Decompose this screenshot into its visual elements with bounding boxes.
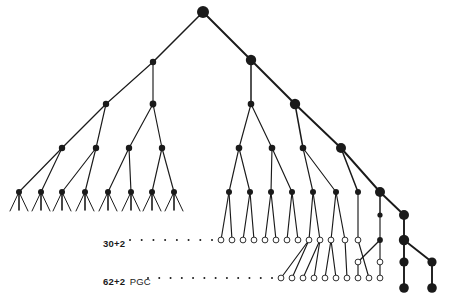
- tree-node-filled: [59, 189, 65, 195]
- tree-node-filled: [399, 257, 408, 266]
- tree-node-filled: [247, 189, 253, 195]
- tree-node-filled: [427, 283, 437, 293]
- terminal-stub: [165, 192, 174, 211]
- tree-edge: [313, 192, 320, 240]
- tree-node-filled: [269, 145, 276, 152]
- tree-node-open: [377, 259, 383, 265]
- tree-node-filled: [149, 189, 155, 195]
- tree-node-filled: [289, 189, 295, 195]
- terminal-stub: [76, 192, 85, 211]
- terminal-stub: [122, 192, 131, 211]
- tree-edge: [129, 104, 153, 148]
- tree-node-open: [240, 237, 246, 243]
- leader-dot: [152, 239, 154, 241]
- tree-stubs-layer: [10, 192, 183, 211]
- tree-node-open: [322, 275, 328, 281]
- tree-edge: [229, 148, 239, 192]
- tree-node-filled: [150, 101, 157, 108]
- tree-edge: [221, 192, 229, 240]
- tree-node-filled: [246, 55, 256, 65]
- tree-edge: [108, 148, 129, 192]
- leader-dot: [237, 277, 239, 279]
- terminal-stub: [41, 192, 50, 211]
- terminal-stub: [143, 192, 152, 211]
- leader-dot: [188, 239, 190, 241]
- terminal-stub: [99, 192, 108, 211]
- leader-dot: [211, 239, 213, 241]
- tree-edge: [62, 104, 106, 148]
- leader-dot: [176, 239, 178, 241]
- leader-dot: [215, 277, 217, 279]
- tree-edge: [325, 240, 331, 278]
- tree-edge: [345, 240, 347, 278]
- tree-edge: [331, 240, 336, 278]
- terminal-stub: [85, 192, 94, 211]
- tree-node-filled: [38, 189, 44, 195]
- leader-dot: [170, 277, 172, 279]
- tree-node-open: [317, 237, 323, 243]
- leader-dot: [141, 239, 143, 241]
- tree-node-open: [306, 237, 312, 243]
- tree-node-open: [355, 237, 361, 243]
- lineage-tree-graphic: [0, 0, 450, 302]
- tree-node-filled: [399, 283, 409, 293]
- tree-node-open: [295, 237, 301, 243]
- tree-edge: [153, 104, 162, 148]
- tree-node-open: [333, 275, 339, 281]
- tree-edge: [341, 148, 358, 192]
- tree-node-filled: [93, 145, 99, 151]
- tree-node-filled: [16, 189, 22, 195]
- tree-node-open: [377, 275, 383, 281]
- tree-node-filled: [310, 189, 316, 195]
- tree-node-open: [284, 237, 290, 243]
- tree-edge: [358, 240, 369, 278]
- leader-dot: [271, 277, 273, 279]
- leader-dot: [158, 277, 160, 279]
- tree-node-filled: [268, 189, 274, 195]
- tree-node-open: [218, 237, 224, 243]
- terminal-stub: [53, 192, 62, 211]
- tree-edge: [19, 148, 62, 192]
- tree-edge: [162, 148, 174, 192]
- figure-canvas: 30+2 62+2 PGC: [0, 0, 450, 302]
- tree-node-open: [262, 237, 268, 243]
- tree-edge: [336, 192, 345, 240]
- tree-edge: [287, 192, 292, 240]
- tree-node-open: [278, 275, 284, 281]
- tree-edge: [250, 192, 254, 240]
- tree-node-filled: [427, 257, 436, 266]
- row-label-62-bold: 62+2: [103, 276, 125, 287]
- tree-node-open: [273, 237, 279, 243]
- leader-dot: [129, 239, 131, 241]
- tree-node-filled: [236, 145, 243, 152]
- tree-node-filled: [59, 145, 65, 151]
- tree-edge: [272, 148, 292, 192]
- row-label-62-regular: PGC: [130, 276, 151, 287]
- tree-edge: [251, 104, 272, 148]
- tree-node-filled: [103, 101, 109, 107]
- tree-node-open: [311, 275, 317, 281]
- tree-nodes-layer: [16, 6, 437, 293]
- tree-node-filled: [126, 145, 132, 151]
- tree-edge: [341, 148, 380, 192]
- tree-node-filled: [355, 189, 361, 195]
- leader-dot: [181, 277, 183, 279]
- leader-dot: [199, 239, 201, 241]
- tree-node-open: [355, 259, 361, 265]
- row-label-30-bold: 30+2: [103, 238, 125, 249]
- terminal-stub: [152, 192, 161, 211]
- tree-node-filled: [197, 6, 209, 18]
- row-label-62: 62+2 PGC: [103, 272, 151, 288]
- tree-edge: [309, 192, 313, 240]
- tree-node-open: [344, 275, 350, 281]
- tree-node-filled: [159, 145, 165, 151]
- tree-node-open: [366, 275, 372, 281]
- terminal-stub: [108, 192, 117, 211]
- terminal-stub: [62, 192, 71, 211]
- tree-edge: [96, 104, 106, 148]
- terminal-stub: [32, 192, 41, 211]
- tree-edge: [265, 192, 271, 240]
- tree-node-filled: [105, 189, 111, 195]
- tree-node-filled: [82, 189, 88, 195]
- tree-edge: [239, 104, 251, 148]
